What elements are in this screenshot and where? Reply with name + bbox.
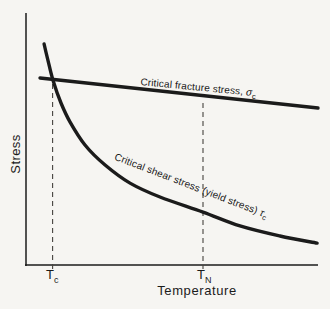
tick-tn-main: T bbox=[197, 267, 205, 282]
tick-tn-sub: N bbox=[205, 275, 212, 285]
tick-label-tc: Tc bbox=[46, 267, 58, 285]
stress-temperature-diagram: Stress Temperature Tc TN Critical fractu… bbox=[0, 0, 330, 309]
tick-label-tn: TN bbox=[197, 267, 211, 285]
tick-tc-sub: c bbox=[54, 275, 59, 285]
y-axis-label: Stress bbox=[8, 124, 24, 184]
tick-tc-main: T bbox=[46, 267, 54, 282]
shear-stress-curve bbox=[44, 44, 317, 243]
plot-canvas bbox=[0, 0, 330, 309]
x-axis-label: Temperature bbox=[127, 283, 267, 298]
